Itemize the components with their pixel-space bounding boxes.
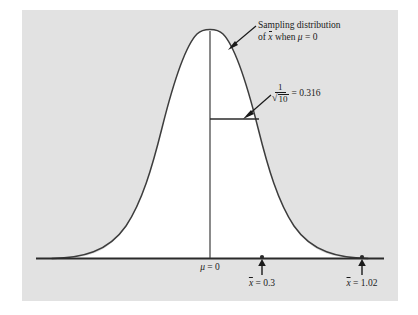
tick-dot-xbar-high [360,255,364,259]
axis-label-xbar-low: x = 0.3 [249,278,275,288]
axis-label-xbar-low-symbol: x [249,278,253,288]
figure-container: Sampling distribution of x when μ = 0 1 … [0,0,418,315]
distribution-callout-when: when [273,32,298,42]
axis-label-xbar-high: x = 1.02 [347,278,378,288]
axis-label-mu-value: = 0 [205,262,220,272]
standard-error-fraction: 1 √10 [272,83,289,104]
distribution-callout-line2: of x when μ = 0 [258,32,341,44]
standard-error-callout-text: 1 √10 = 0.316 [272,83,321,104]
axis-label-xbar-high-value: = 1.02 [351,278,378,288]
standard-error-value: = 0.316 [292,88,321,100]
axis-label-xbar-low-value: = 0.3 [253,278,275,288]
distribution-callout-of: of [258,32,268,42]
xbar-symbol: x [268,32,272,44]
tick-arrowhead-xbar-low [258,259,266,266]
distribution-callout-value: = 0 [303,32,318,42]
tick-arrowhead-xbar-high [358,259,366,266]
tick-dot-xbar-low [260,255,264,259]
distribution-callout-text: Sampling distribution of x when μ = 0 [258,20,341,43]
fraction-denominator: √10 [272,93,289,104]
axis-label-xbar-high-symbol: x [347,278,351,288]
fraction-radicand: 10 [278,94,289,104]
axis-label-mu: μ = 0 [200,262,220,272]
distribution-callout-line1: Sampling distribution [258,20,341,32]
